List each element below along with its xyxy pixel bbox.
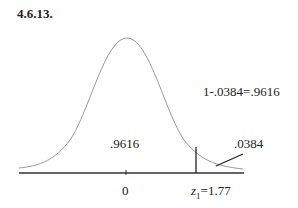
z-value: =1.77: [201, 183, 231, 198]
normal-curve-diagram: [0, 0, 298, 208]
complement-annotation: 1-.0384=.9616: [203, 84, 280, 100]
zero-label: 0: [122, 183, 129, 199]
left-area-label: .9616: [110, 136, 139, 152]
critical-value-label: z1=1.77: [191, 183, 231, 201]
tail-pointer: [216, 154, 243, 166]
tail-area-label: .0384: [234, 136, 263, 152]
